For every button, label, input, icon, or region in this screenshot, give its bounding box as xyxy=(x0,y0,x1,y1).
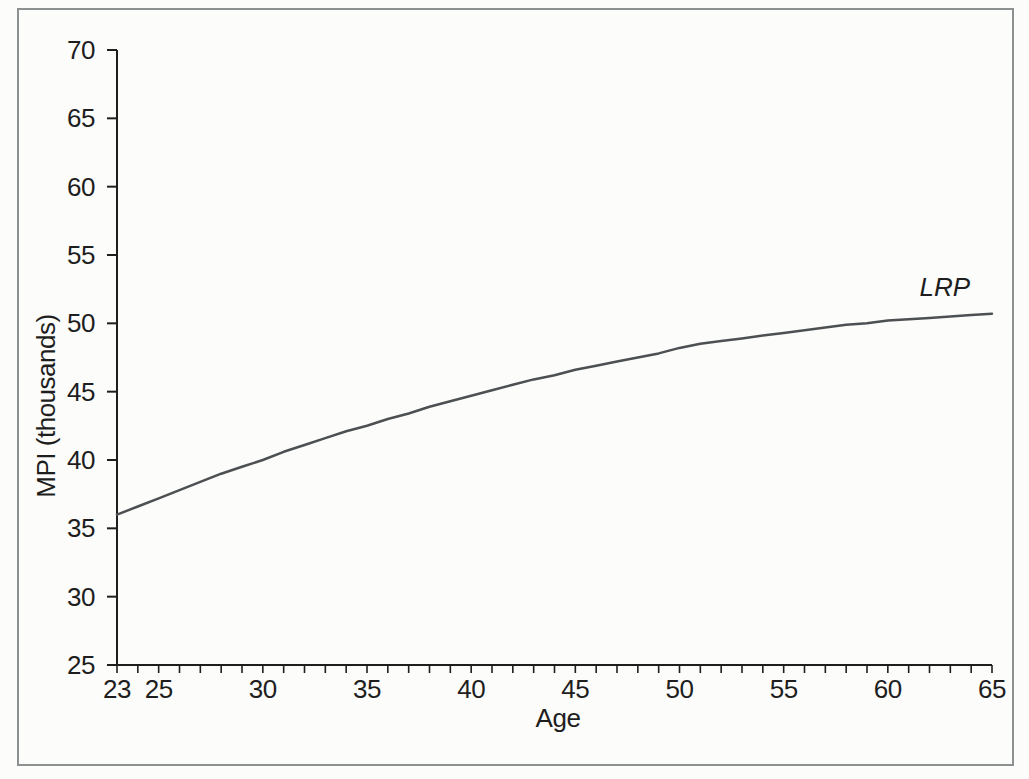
x-tick-label: 23 xyxy=(103,674,131,704)
x-tick-label: 50 xyxy=(666,674,694,704)
y-tick-label: 60 xyxy=(67,172,95,202)
x-tick-label: 25 xyxy=(145,674,173,704)
y-tick-label: 55 xyxy=(67,240,95,270)
y-tick-label: 40 xyxy=(67,445,95,475)
x-tick-label: 55 xyxy=(770,674,798,704)
y-tick-label: 65 xyxy=(67,103,95,133)
x-tick-label: 30 xyxy=(249,674,277,704)
x-tick-label: 65 xyxy=(978,674,1006,704)
y-tick-label: 35 xyxy=(67,513,95,543)
y-tick-label: 45 xyxy=(67,377,95,407)
y-tick-label: 30 xyxy=(67,582,95,612)
x-tick-label: 35 xyxy=(353,674,381,704)
lrp-curve xyxy=(117,314,992,515)
x-tick-label: 45 xyxy=(561,674,589,704)
x-tick-label: 40 xyxy=(457,674,485,704)
x-tick-label: 60 xyxy=(874,674,902,704)
chart-canvas: 2530354045505560657023253035404550556065 xyxy=(0,0,1029,779)
y-axis-title: MPI (thousands) xyxy=(31,246,61,566)
y-tick-label: 70 xyxy=(67,35,95,65)
y-tick-label: 50 xyxy=(67,308,95,338)
lrp-line-label: LRP xyxy=(880,272,970,303)
figure-page: 2530354045505560657023253035404550556065… xyxy=(0,0,1029,779)
y-tick-label: 25 xyxy=(67,650,95,680)
x-axis-title: Age xyxy=(508,703,608,734)
